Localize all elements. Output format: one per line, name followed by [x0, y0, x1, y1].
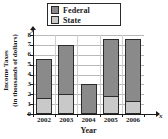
- y-tick-mark: [30, 35, 33, 36]
- bar-segment-federal: [59, 46, 73, 94]
- x-tick-label: 2002: [33, 116, 55, 124]
- y-tick-mark: [30, 65, 33, 66]
- x-tick-mark: [100, 114, 101, 117]
- bar-segment-federal: [104, 40, 118, 96]
- bar-segment-state: [59, 94, 73, 113]
- income-taxes-bar-chart: Federal State Income Taxes (in thousands…: [0, 0, 168, 139]
- x-tick-label: 2004: [77, 116, 99, 124]
- y-axis-letter: y: [31, 26, 34, 34]
- y-axis-title-wrapper: Income Taxes (in thousands of dollars): [0, 30, 20, 118]
- y-axis-line: [33, 29, 34, 115]
- legend-swatch-state: [51, 16, 59, 24]
- x-axis-title: Year: [33, 126, 144, 135]
- y-tick-mark: [30, 75, 33, 76]
- x-tick-mark: [33, 114, 34, 117]
- x-tick-mark: [77, 114, 78, 117]
- bar-segment-state: [104, 96, 118, 113]
- legend-swatch-federal: [51, 6, 59, 14]
- bar-segment-state: [126, 101, 140, 113]
- legend-item-federal: Federal: [51, 5, 118, 15]
- x-axis-letter: x: [159, 112, 163, 120]
- legend-item-state: State: [51, 15, 118, 25]
- y-tick-mark: [30, 104, 33, 105]
- bar-segment-state: [37, 98, 51, 113]
- legend-label-federal: Federal: [63, 6, 90, 15]
- x-tick-label: 2005: [100, 116, 122, 124]
- x-tick-mark: [144, 114, 145, 117]
- y-tick-mark: [30, 94, 33, 95]
- chart-legend: Federal State: [47, 3, 121, 26]
- bar-2005: [103, 39, 119, 114]
- bar-2004: [81, 84, 97, 114]
- bar-segment-federal: [126, 40, 140, 101]
- bars-layer: [33, 35, 144, 114]
- bar-segment-federal: [82, 85, 96, 113]
- x-tick-mark: [55, 114, 56, 117]
- y-axis-title: Income Taxes (in thousands of dollars): [2, 27, 19, 115]
- x-tick-mark: [122, 114, 123, 117]
- x-tick-label: 2006: [122, 116, 144, 124]
- bar-2003: [58, 45, 74, 114]
- legend-label-state: State: [63, 16, 81, 25]
- x-tick-label: 2003: [55, 116, 77, 124]
- x-axis-line: [27, 114, 157, 115]
- y-axis-title-line1: Income Taxes: [2, 50, 10, 91]
- y-tick-mark: [30, 45, 33, 46]
- bar-segment-federal: [37, 60, 51, 98]
- y-tick-mark: [30, 84, 33, 85]
- bar-2006: [125, 39, 141, 114]
- y-tick-mark: [30, 55, 33, 56]
- bar-2002: [36, 59, 52, 114]
- y-axis-title-line2: (in thousands of dollars): [10, 27, 19, 115]
